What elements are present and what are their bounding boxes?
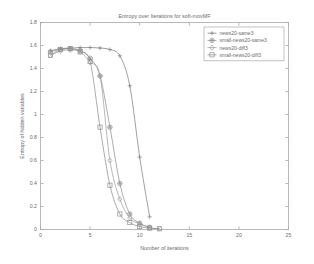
marker-plus: [88, 45, 92, 49]
chart-title: Entropy over Iterations for soft-movMF: [119, 13, 212, 19]
marker-plus: [138, 155, 142, 159]
y-tick-label: 1.2: [30, 88, 37, 94]
x-tick-label: 0: [39, 232, 42, 238]
y-tick-label: 0.2: [30, 203, 37, 209]
legend-label: small-news20-same3: [220, 37, 267, 43]
x-tick-label: 15: [186, 232, 192, 238]
y-tick-label: 1: [34, 111, 37, 117]
marker-plus: [98, 46, 102, 50]
marker-plus: [118, 54, 122, 58]
x-tick-label: 10: [137, 232, 143, 238]
marker-plus: [128, 84, 132, 88]
entropy-line-chart: 051015202500.20.40.60.811.21.41.61.8Entr…: [0, 0, 314, 264]
x-tick-label: 5: [89, 232, 92, 238]
x-tick-label: 25: [286, 232, 292, 238]
x-tick-label: 20: [236, 232, 242, 238]
series-news20-diff3: [48, 47, 161, 231]
y-tick-label: 0.8: [30, 134, 37, 140]
marker-plus: [108, 47, 112, 51]
legend-label: news20-diff3: [220, 45, 248, 51]
legend-label: news20-same3: [220, 30, 254, 36]
series-line: [50, 49, 159, 229]
y-tick-label: 1.8: [30, 19, 37, 25]
chart-figure: 051015202500.20.40.60.811.21.41.61.8Entr…: [0, 0, 314, 264]
series-news20-same3: [48, 45, 151, 218]
y-tick-label: 0: [34, 226, 37, 232]
series-small-news20-diff3: [48, 47, 161, 231]
y-axis-title: Entropy of hidden variables: [19, 93, 25, 159]
y-tick-label: 1.6: [30, 42, 37, 48]
y-tick-label: 0.6: [30, 157, 37, 163]
x-axis-title: Number of iterations: [140, 245, 189, 251]
marker-plus: [148, 215, 152, 219]
series-line: [50, 50, 159, 229]
y-tick-label: 0.4: [30, 180, 37, 186]
y-tick-label: 1.4: [30, 65, 37, 71]
legend-label: small-news20-diff3: [220, 52, 262, 58]
